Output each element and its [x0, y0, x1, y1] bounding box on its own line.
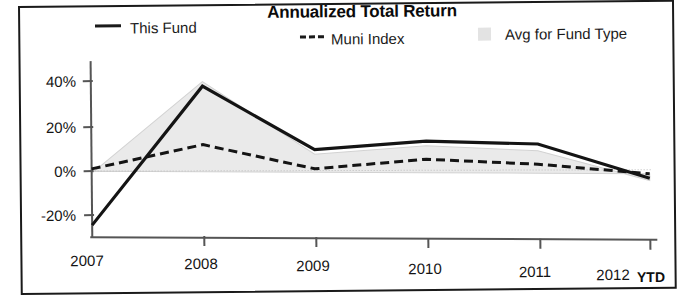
y-tick-label-20: 20% [14, 119, 76, 137]
x-tick-label-2009: 2009 [278, 257, 348, 275]
y-tick-label-neg20: -20% [14, 207, 76, 225]
x-tick-label-2011: 2011 [500, 263, 570, 281]
x-axis-ytd-label: YTD [637, 269, 665, 285]
x-axis-line [90, 232, 657, 245]
x-tick-label-2007: 2007 [52, 252, 122, 270]
x-tick-label-2008: 2008 [166, 255, 236, 273]
x-tick-label-2010: 2010 [390, 260, 460, 278]
y-tick-label-0: 0% [14, 163, 76, 181]
y-tick-label-40: 40% [14, 73, 76, 91]
y-axis-line [91, 61, 93, 237]
chart-screenshot: Annualized Total Return This Fund Muni I… [0, 0, 695, 305]
